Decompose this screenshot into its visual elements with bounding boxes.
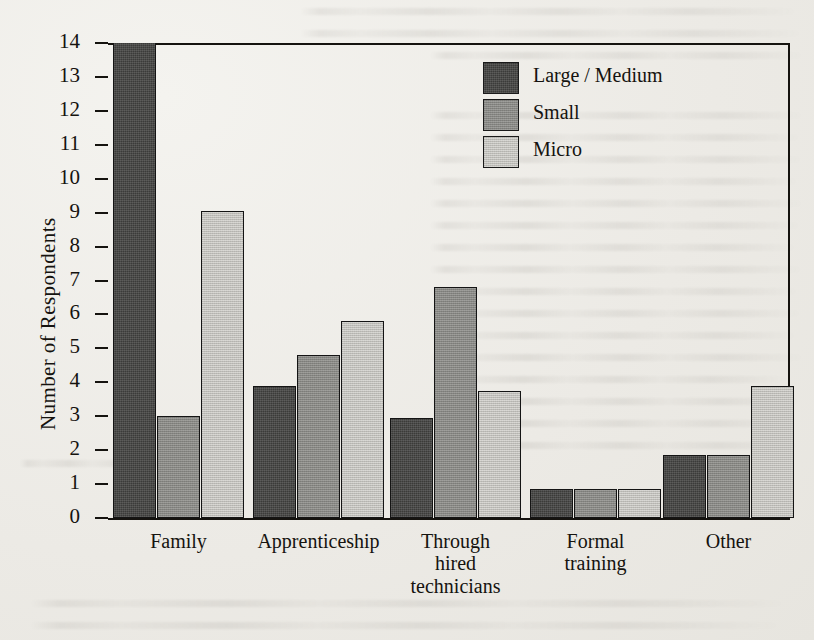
bar-small	[707, 455, 750, 518]
y-axis-tick-label: 0	[50, 504, 80, 529]
y-axis-tick-mark	[95, 483, 108, 485]
y-axis-tick-mark	[95, 246, 108, 248]
y-axis-tick-mark	[95, 347, 108, 349]
plot-frame-top	[108, 43, 790, 45]
legend-swatch-small	[483, 99, 519, 131]
bar-micro	[201, 211, 244, 518]
bar-small	[434, 287, 477, 518]
y-axis-tick-mark	[95, 280, 108, 282]
bar-large-medium	[253, 386, 296, 518]
y-axis-tick-label: 11	[50, 131, 80, 156]
y-axis-tick-label: 2	[50, 436, 80, 461]
legend-swatch-large-medium	[483, 62, 519, 94]
y-axis-tick-mark	[95, 212, 108, 214]
bar-small	[157, 416, 200, 518]
y-axis-tick-mark	[95, 110, 108, 112]
y-axis-tick-label: 10	[50, 165, 80, 190]
y-axis-title: Number of Respondents	[36, 217, 61, 430]
y-axis-tick-mark	[95, 313, 108, 315]
y-axis-tick-mark	[95, 178, 108, 180]
bar-micro	[341, 321, 384, 518]
y-axis-tick-label: 12	[50, 97, 80, 122]
y-axis-tick-mark	[95, 381, 108, 383]
bar-large-medium	[530, 489, 573, 518]
y-axis-tick-label: 14	[50, 29, 80, 54]
x-axis-line	[108, 518, 790, 520]
bar-large-medium	[113, 43, 156, 518]
bar-micro	[751, 386, 794, 518]
bar-large-medium	[390, 418, 433, 518]
bar-large-medium	[663, 455, 706, 518]
bar-small	[574, 489, 617, 518]
y-axis-tick-label: 1	[50, 470, 80, 495]
bar-micro	[478, 391, 521, 518]
legend-label-small: Small	[533, 101, 580, 124]
bar-chart: 14131211109876543210Number of Respondent…	[0, 0, 814, 640]
y-axis-tick-mark	[95, 42, 108, 44]
y-axis-tick-mark	[95, 144, 108, 146]
y-axis-tick-mark	[95, 517, 108, 519]
legend-label-large-medium: Large / Medium	[533, 64, 663, 87]
bar-small	[297, 355, 340, 518]
y-axis-tick-mark	[95, 415, 108, 417]
legend-swatch-micro	[483, 136, 519, 168]
y-axis-tick-label: 13	[50, 63, 80, 88]
bar-micro	[618, 489, 661, 518]
y-axis-tick-mark	[95, 449, 108, 451]
y-axis-tick-mark	[95, 76, 108, 78]
legend-label-micro: Micro	[533, 138, 582, 161]
x-axis-category-label: Other	[639, 530, 814, 552]
